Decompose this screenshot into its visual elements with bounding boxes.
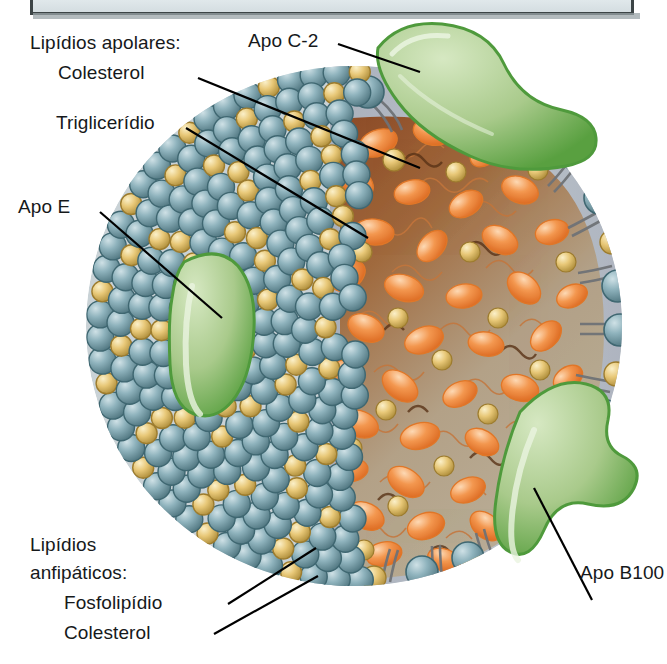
figure-canvas: Lipídios apolares: Colesterol Triglicerí…	[0, 0, 667, 664]
label-amphipathic-group-line2: anfipáticos:	[30, 562, 127, 584]
cholesterol-sphere	[326, 186, 347, 207]
label-triglyceride: Triglicerídio	[56, 112, 155, 134]
phospholipid-head-sphere	[342, 341, 369, 368]
label-cholesterol-apolar: Colesterol	[58, 62, 145, 84]
phospholipid-head-sphere	[292, 316, 319, 343]
label-apo-c2: Apo C-2	[248, 30, 318, 52]
phospholipid-head-sphere	[296, 146, 323, 173]
cholesterol-sphere	[311, 126, 332, 147]
label-phospholipid: Fosfolipídio	[64, 592, 162, 614]
label-apo-b100: Apo B100	[580, 562, 664, 584]
label-amphipathic-group-line1: Lipídios	[30, 534, 96, 556]
label-cholesterol-amphipathic: Colesterol	[64, 622, 151, 644]
label-apo-e: Apo E	[18, 196, 70, 218]
label-apolar-lipids-group: Lipídios apolares:	[30, 32, 181, 54]
phospholipid-head-sphere	[346, 182, 373, 209]
phospholipid-head-sphere	[339, 284, 366, 311]
cholesterol-sphere	[258, 76, 279, 97]
cholesterol-sphere	[131, 318, 152, 339]
phospholipid-head-sphere	[323, 59, 350, 86]
